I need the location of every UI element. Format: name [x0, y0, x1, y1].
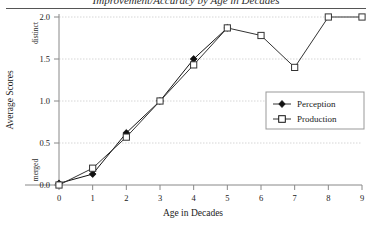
legend-item-perception[interactable]: Perception: [273, 99, 336, 109]
y-tick-label: 0.0: [39, 180, 50, 190]
legend-label-perception: Perception: [297, 99, 336, 109]
legend-item-production[interactable]: Production: [273, 114, 337, 124]
x-tick-label: 5: [225, 193, 229, 203]
chart-legend[interactable]: Perception Production: [266, 92, 364, 129]
y-tick-label: 2.0: [39, 12, 50, 22]
marker-open-square: [359, 14, 365, 20]
x-tick-label: 2: [124, 193, 128, 203]
marker-open-square: [191, 62, 197, 68]
marker-open-square: [292, 64, 298, 70]
marker-open-square: [224, 25, 230, 31]
x-tick-label: 0: [57, 193, 61, 203]
x-tick-label: 9: [360, 193, 364, 203]
marker-open-square: [258, 32, 264, 38]
y-tick-label: 1.0: [39, 96, 50, 106]
marker-open-square: [123, 134, 129, 140]
y-axis-ticks: [54, 17, 59, 185]
y-axis-high-annotation: distinct: [31, 21, 40, 44]
y-axis-low-annotation: merged: [31, 159, 40, 182]
x-axis-title: Age in Decades: [163, 208, 223, 218]
x-tick-label: 3: [158, 193, 162, 203]
marker-open-square: [157, 98, 163, 104]
y-tick-label: 0.5: [39, 138, 50, 148]
y-axis-tick-labels: 0.00.51.01.52.0: [39, 12, 50, 190]
legend-marker-open-square-icon: [279, 116, 286, 123]
chart-container: Improvement/Accuracy by Age in Decades 0…: [0, 0, 372, 226]
x-tick-label: 6: [259, 193, 263, 203]
y-tick-label: 1.5: [39, 54, 50, 64]
x-tick-label: 7: [293, 193, 297, 203]
marker-open-square: [325, 14, 331, 20]
series-perception: [56, 25, 231, 187]
x-tick-label: 8: [326, 193, 330, 203]
x-tick-label: 4: [192, 193, 197, 203]
x-axis-tick-labels: 0123456789: [57, 193, 364, 203]
y-axis-title: Average Scores: [5, 70, 15, 129]
marker-open-square: [56, 182, 62, 188]
chart-plot-area: 0123456789 0.00.51.01.52.0 Age in Decade…: [0, 0, 372, 226]
x-axis-ticks: [59, 185, 362, 190]
marker-open-square: [90, 165, 96, 171]
series-line: [59, 28, 227, 183]
x-tick-label: 1: [91, 193, 95, 203]
legend-label-production: Production: [297, 114, 337, 124]
